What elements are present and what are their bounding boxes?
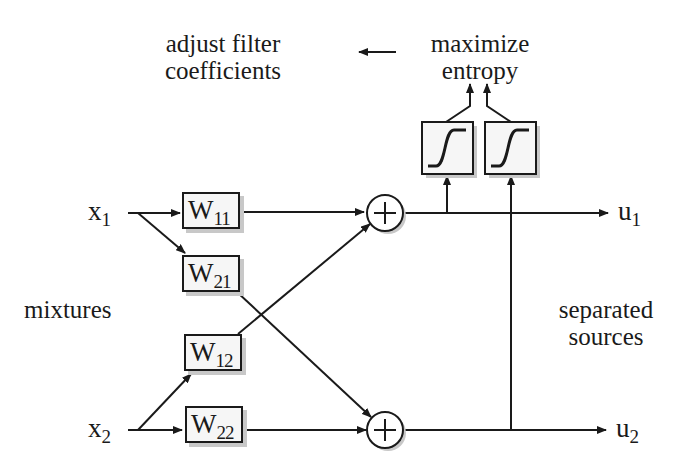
input-x1-name: x: [88, 196, 102, 226]
edge-x2-w12: [138, 374, 191, 430]
input-x2-sub: 2: [102, 426, 112, 447]
adjust-line-2: coefficients: [150, 57, 296, 84]
weight-w11-name: W: [188, 195, 213, 225]
weight-w21: W21: [182, 255, 240, 292]
edge-x1-w21: [138, 213, 185, 253]
sigmoid-box-2: [485, 122, 540, 178]
input-x1-sub: 1: [102, 209, 112, 230]
adjust-line-1: adjust filter: [150, 30, 296, 57]
output-u2: u2: [616, 413, 639, 448]
output-u1-name: u: [618, 196, 632, 226]
edge-sigmoid1-entropy: [446, 84, 470, 122]
edge-w12-sum1: [238, 224, 370, 334]
mixtures-label: mixtures: [24, 296, 112, 323]
weight-w12-name: W: [190, 337, 215, 367]
output-u2-name: u: [616, 413, 630, 443]
weight-w12: W12: [184, 334, 242, 371]
separated-line-1: separated: [546, 296, 666, 323]
separated-sources-label: separated sources: [546, 296, 666, 350]
weight-w22: W22: [185, 406, 243, 443]
input-x1: x1: [88, 196, 111, 231]
maximize-line-2: entropy: [420, 57, 540, 84]
adjust-coefficients-label: adjust filter coefficients: [150, 30, 296, 84]
weight-w22-name: W: [191, 409, 216, 439]
output-u1-sub: 1: [632, 209, 642, 230]
maximize-line-1: maximize: [420, 30, 540, 57]
weight-w12-sub: 12: [215, 350, 232, 371]
weight-w21-sub: 21: [213, 271, 230, 292]
input-x2: x2: [88, 413, 111, 448]
weight-w21-name: W: [188, 258, 213, 288]
edge-w21-sum2: [237, 292, 371, 417]
diagram-canvas: [0, 0, 687, 469]
output-u2-sub: 2: [630, 426, 640, 447]
input-x2-name: x: [88, 413, 102, 443]
separated-line-2: sources: [546, 323, 666, 350]
weight-w22-sub: 22: [216, 422, 233, 443]
sigmoid-box-1: [422, 122, 477, 178]
summer-1: [367, 195, 406, 234]
output-u1: u1: [618, 196, 641, 231]
edge-sigmoid2-entropy: [487, 84, 511, 122]
weight-w11: W11: [182, 192, 240, 229]
maximize-entropy-label: maximize entropy: [420, 30, 540, 84]
summer-2: [367, 412, 406, 451]
weight-w11-sub: 11: [213, 208, 229, 229]
